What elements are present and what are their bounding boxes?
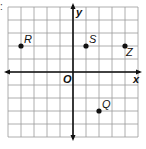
coordinate-plane: yxORSZQ xyxy=(0,0,146,149)
point-label-z: Z xyxy=(125,46,134,58)
point-q xyxy=(96,108,101,113)
arrow-left-icon xyxy=(4,70,10,75)
point-label-s: S xyxy=(89,33,97,45)
y-axis-label: y xyxy=(75,6,83,18)
x-axis-label: x xyxy=(132,73,140,85)
point-label-q: Q xyxy=(102,98,111,110)
origin-label: O xyxy=(63,73,72,85)
point-s xyxy=(83,43,88,48)
arrow-up-icon xyxy=(71,3,76,9)
point-label-r: R xyxy=(24,33,32,45)
arrow-down-icon xyxy=(71,135,76,141)
point-r xyxy=(18,43,23,48)
